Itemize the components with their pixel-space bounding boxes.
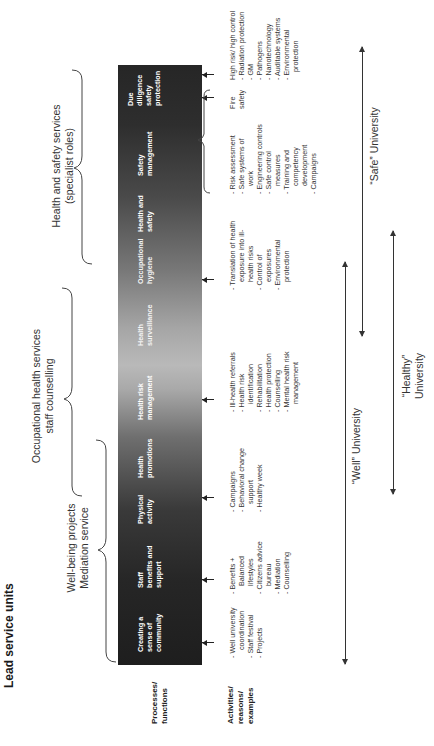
well-university-arrow [345, 262, 346, 664]
arrowhead-left-icon [390, 489, 396, 495]
activity-item: - Projects [255, 598, 264, 658]
activity-item: - Campaigns [309, 122, 318, 194]
healthy-university-arrow [393, 231, 394, 494]
activity-item: - GM [246, 2, 255, 80]
label-line: “Healthy” [400, 326, 413, 426]
activity-item: - Mental health risk management [282, 332, 300, 412]
arrowhead-right-icon [359, 46, 365, 52]
activity-item: - Healthy week [255, 426, 264, 512]
fire-safety-label: Fire safety [228, 83, 246, 109]
fire-safety: Fire safety [228, 83, 246, 109]
activities-staff-benefits: - Benefits + Balanced lifestyles - Citiz… [228, 532, 291, 594]
arrowhead-left-icon [342, 659, 348, 665]
activities-occupational-hygiene: - Translation of health exposure into il… [228, 220, 291, 290]
healthy-university-label: “Healthy” University [400, 326, 426, 426]
activity-item: - Translation of health exposure into il… [228, 220, 255, 290]
label-line: University [413, 326, 426, 426]
activity-item: - Citizens advice bureau [255, 532, 273, 594]
service-units-diagram: Lead service units Well-being projects M… [0, 0, 434, 746]
activity-item: - Safe control measures [264, 122, 282, 194]
activity-item: - Health risk identification [237, 332, 255, 412]
activities-safety-management: - Risk assessment - Safe systems of work… [228, 122, 318, 194]
activity-item: - Radiation protection [237, 2, 246, 80]
activity-item: - Mediation [273, 532, 282, 594]
activity-item: - Behavioral change support [237, 426, 255, 512]
activity-item: - Risk assessment [228, 122, 237, 194]
activity-item: - Engineering controls [255, 122, 264, 194]
activity-item: - Control of exposures [255, 220, 273, 290]
high-risk-heading: High risk/ high control [228, 2, 237, 80]
well-university-label: “Well” University [350, 386, 363, 506]
activities-health-risk: - Ill-health referrals - Health risk ide… [228, 332, 300, 412]
arrowhead-right-icon [390, 230, 396, 236]
safe-university-arrow [362, 47, 363, 336]
safe-university-label: “Safe” University [368, 86, 381, 206]
activity-item: - Counselling [282, 532, 291, 594]
activity-item: - Auditable systems [273, 2, 282, 80]
activity-item: - Benefits + Balanced lifestyles [228, 532, 255, 594]
activity-item: - Environmental protection [273, 220, 291, 290]
activity-item: - Campaigns [228, 426, 237, 512]
activity-item: - Health protection [264, 332, 273, 412]
activity-item: - Pathogens [255, 2, 264, 80]
activity-item: - Safe systems of work [237, 122, 255, 194]
activity-item: - Well university coordination [228, 598, 246, 658]
activities-community: - Well university coordination - Staff f… [228, 598, 264, 658]
activity-item: - Environmental protection [282, 2, 300, 80]
activity-item: - Counselling [273, 332, 282, 412]
arrowhead-left-icon [359, 331, 365, 337]
activity-item: - Rehabilitation [255, 332, 264, 412]
activity-item: - Ill-health referrals [228, 332, 237, 412]
activity-item: - Nanotechnology [264, 2, 273, 80]
activities-high-risk: High risk/ high control - Radiation prot… [228, 2, 300, 80]
activities-health-promotions: - Campaigns - Behavioral change support … [228, 426, 264, 512]
activity-item: - Training and competency development [282, 122, 309, 194]
arrowhead-right-icon [342, 261, 348, 267]
activity-item: - Staff festival [246, 598, 255, 658]
